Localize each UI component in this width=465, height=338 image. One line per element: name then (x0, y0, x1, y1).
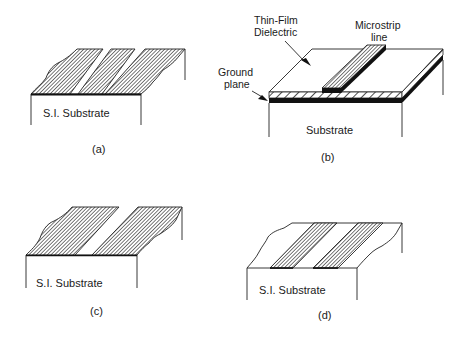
substrate-label: S.I. Substrate (36, 277, 103, 289)
label-plane: plane (224, 78, 250, 90)
panel-d: S.I. Substrate (d) (247, 223, 402, 321)
dielectric-leader (285, 41, 305, 62)
substrate-label: S.I. Substrate (43, 107, 110, 119)
caption-b: (b) (321, 151, 334, 163)
ground-plane (269, 98, 402, 103)
label-ground: Ground (218, 66, 253, 78)
caption-d: (d) (318, 309, 331, 321)
label-microstrip: Microstrip (355, 19, 401, 31)
caption-a: (a) (92, 143, 105, 155)
substrate-label: Substrate (306, 124, 353, 136)
arrow-icon (258, 95, 268, 101)
label-line: line (371, 31, 388, 43)
panel-c: S.I. Substrate (c) (26, 207, 182, 317)
caption-c: (c) (90, 305, 103, 317)
panel-b: Thin-Film Dielectric Microstrip line Gro… (218, 14, 443, 163)
label-dielectric: Dielectric (254, 26, 297, 38)
panel-a: S.I. Substrate (a) (31, 49, 185, 155)
transmission-line-diagram: S.I. Substrate (a) Thin-Film Dielectric … (0, 0, 465, 338)
substrate-label: S.I. Substrate (259, 284, 326, 296)
microstrip-front-edge (322, 88, 341, 93)
label-thin-film: Thin-Film (254, 14, 298, 26)
